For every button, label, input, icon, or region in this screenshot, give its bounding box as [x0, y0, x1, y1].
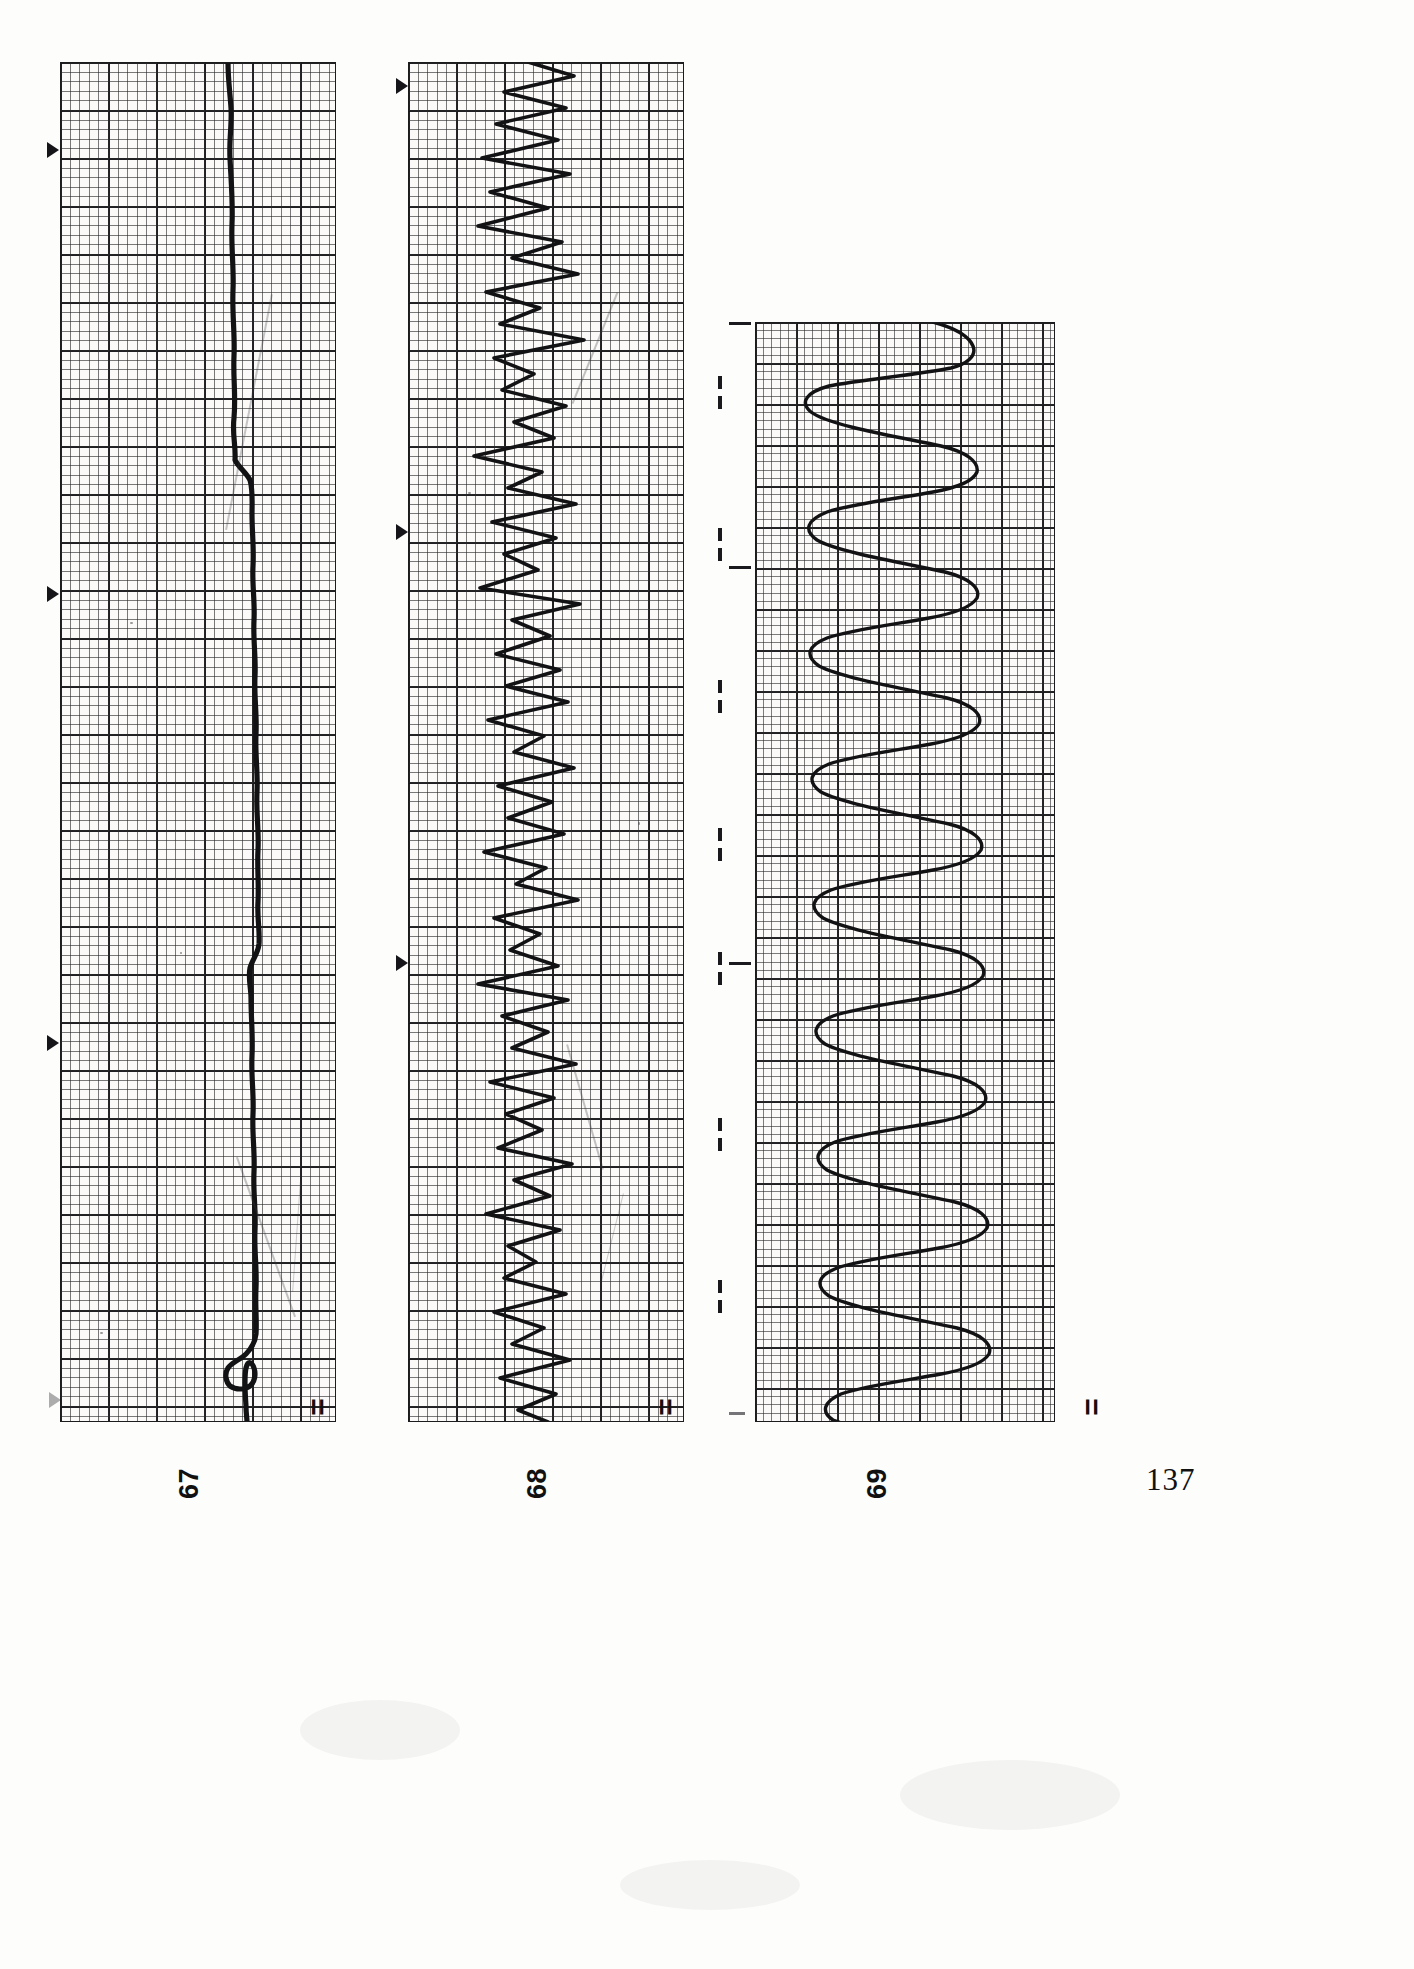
event-marker-dash [718, 1118, 722, 1131]
event-marker-triangle [47, 1035, 59, 1051]
event-marker-triangle [49, 1392, 61, 1408]
ecg-trace-67 [60, 62, 336, 1422]
ecg-trace-68 [408, 62, 684, 1422]
event-marker-dash [718, 548, 722, 561]
scan-speck [468, 492, 471, 494]
event-marker-dash [718, 848, 722, 861]
scan-speck [100, 1332, 103, 1334]
scan-smudge [900, 1760, 1120, 1830]
event-marker-dash [718, 1280, 722, 1293]
event-marker-dash [729, 962, 751, 965]
scan-speck [638, 822, 640, 825]
scan-smudge [300, 1700, 460, 1760]
ecg-strip-67 [60, 62, 336, 1422]
event-marker-dash [718, 828, 722, 841]
scanned-page: = 67 Physio-Control ® = 68 [0, 0, 1414, 1969]
strip-end-mark-69: = [1075, 1387, 1109, 1427]
event-marker-dash [718, 1300, 722, 1313]
event-marker-triangle [396, 524, 408, 540]
event-marker-triangle [47, 586, 59, 602]
event-marker-dash [718, 396, 722, 409]
event-marker-dash [718, 680, 722, 693]
ecg-strip-68 [408, 62, 684, 1422]
scan-speck [130, 622, 133, 624]
strip-end-mark-68: = [649, 1387, 683, 1427]
strip-caption-68: 68 [522, 1463, 553, 1505]
event-marker-dash [718, 952, 722, 965]
event-marker-dash [729, 1412, 745, 1415]
ecg-strip-69 [755, 322, 1055, 1422]
scan-speck [180, 952, 182, 954]
event-marker-dash [718, 1138, 722, 1151]
event-marker-dash [718, 528, 722, 541]
strip-caption-67: 67 [174, 1463, 205, 1505]
ecg-trace-69 [755, 322, 1055, 1422]
strip-caption-69: 69 [862, 1463, 893, 1505]
event-marker-dash [729, 566, 751, 569]
page-number: 137 [1146, 1462, 1196, 1498]
strip-end-mark-67: = [301, 1387, 335, 1427]
event-marker-triangle [47, 142, 59, 158]
scan-smudge [620, 1860, 800, 1910]
event-marker-dash [718, 376, 722, 389]
event-marker-triangle [396, 955, 408, 971]
event-marker-dash [729, 322, 751, 325]
event-marker-dash [718, 700, 722, 713]
event-marker-dash [718, 972, 722, 985]
event-marker-triangle [396, 78, 408, 94]
